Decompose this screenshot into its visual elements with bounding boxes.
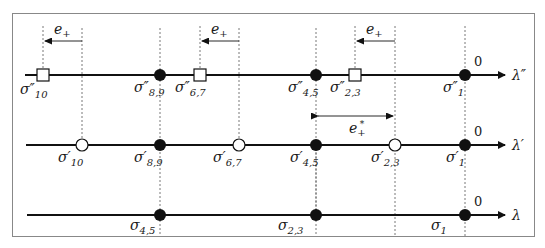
dot-marker-s45 xyxy=(310,139,322,151)
dot-marker-s45 xyxy=(310,69,322,81)
square-marker-s10 xyxy=(37,69,49,81)
dot-marker-s1 xyxy=(459,139,471,151)
square-marker-s67 xyxy=(194,69,206,81)
label-axis-lambda-dp: λ″ xyxy=(511,67,527,83)
dot-marker-s45 xyxy=(154,209,166,221)
open-marker-s10 xyxy=(76,139,88,151)
dot-marker-s89 xyxy=(154,69,166,81)
dot-marker-s1 xyxy=(459,69,471,81)
dot-marker-s1 xyxy=(459,209,471,221)
dot-marker-s23 xyxy=(310,209,322,221)
eigenvalue-shift-diagram: e+ e+ e+ σ″10 σ″8,9 σ″6,7 σ″4,5 σ″2,3 σ″… xyxy=(0,0,545,248)
label-axis-lambda: λ xyxy=(511,207,521,223)
dot-marker-s89 xyxy=(154,139,166,151)
label-zero-bot: 0 xyxy=(474,194,482,209)
label-axis-lambda-p: λ′ xyxy=(511,137,525,153)
square-marker-s23 xyxy=(349,69,361,81)
label-zero-top: 0 xyxy=(474,54,482,69)
figure-frame xyxy=(13,14,535,237)
label-zero-mid: 0 xyxy=(474,124,482,139)
open-marker-s23 xyxy=(389,139,401,151)
open-marker-s67 xyxy=(233,139,245,151)
